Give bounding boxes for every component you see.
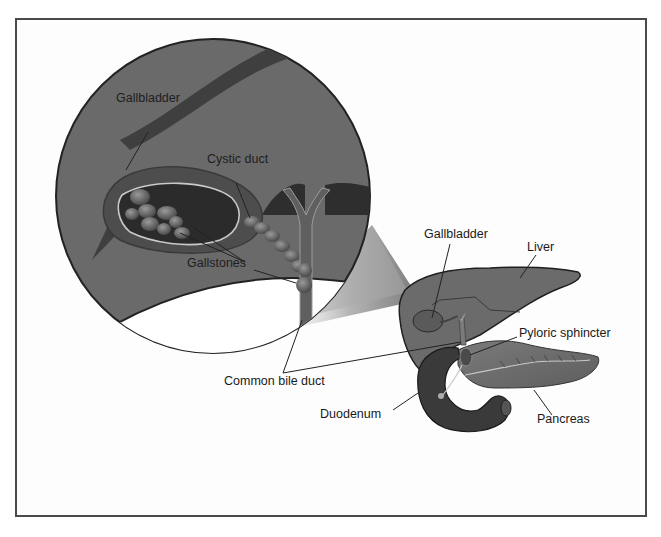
pancreas: [458, 341, 599, 388]
label-gallbladder-inset: Gallbladder: [116, 92, 180, 105]
label-duodenum: Duodenum: [320, 408, 381, 421]
label-liver: Liver: [527, 241, 554, 254]
anatomy-illustration: [0, 0, 661, 537]
label-gallbladder-overview: Gallbladder: [424, 228, 488, 241]
label-pyloric-sphincter: Pyloric sphincter: [519, 327, 611, 340]
label-common-bile-duct: Common bile duct: [224, 375, 325, 388]
label-pancreas: Pancreas: [537, 413, 590, 426]
label-cystic-duct: Cystic duct: [207, 153, 268, 166]
label-gallstones: Gallstones: [187, 257, 246, 270]
inset-circle: [56, 39, 400, 380]
